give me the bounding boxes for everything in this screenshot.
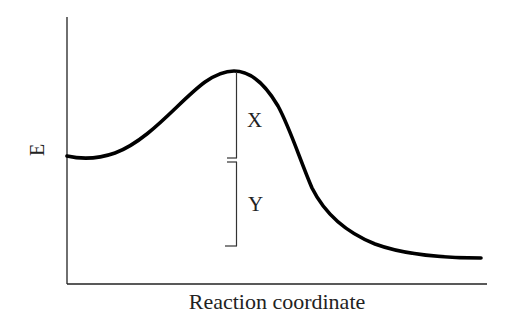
bracket-y <box>225 162 237 246</box>
energy-diagram: E X Y Reaction coordinate <box>0 0 512 316</box>
bracket-y-label: Y <box>248 194 263 215</box>
bracket-x <box>227 72 237 158</box>
bracket-x-label: X <box>247 110 262 131</box>
y-axis-label: E <box>27 140 47 160</box>
energy-curve <box>67 71 481 258</box>
x-axis-label: Reaction coordinate <box>0 291 512 313</box>
chart-svg <box>0 0 512 316</box>
